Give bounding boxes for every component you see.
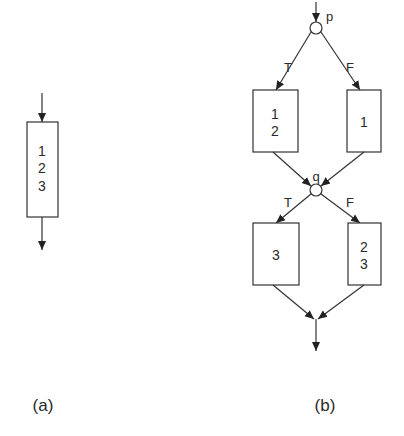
box-bottom-right-line-2: 3	[360, 256, 368, 272]
box-a-line-2: 2	[38, 160, 46, 176]
flow-diagram-figure: 1 2 3 (a) p T F 1 2 1 q T F 3	[0, 0, 404, 436]
decision-node-p	[310, 22, 322, 34]
box-top-left-line-1: 1	[271, 106, 279, 122]
decision-p-label: p	[326, 9, 333, 24]
box-top-right-line-1: 1	[360, 114, 368, 130]
edge-q-false-label: F	[346, 195, 354, 210]
edge-bottom-right-to-merge	[318, 285, 364, 319]
edge-p-true-label: T	[284, 60, 292, 75]
decision-q-label: q	[312, 169, 319, 184]
diagram-a: 1 2 3 (a)	[27, 93, 58, 415]
diagram-b: p T F 1 2 1 q T F 3 2 3 (b)	[253, 2, 381, 415]
edge-top-left-to-q	[273, 152, 311, 186]
box-top-left-line-2: 2	[271, 123, 279, 139]
edge-q-true	[276, 194, 311, 223]
box-a-line-1: 1	[38, 143, 46, 159]
edge-p-false	[321, 32, 360, 90]
box-a-line-3: 3	[38, 178, 46, 194]
box-bottom-left-line-1: 3	[272, 247, 280, 263]
edge-top-right-to-q	[321, 152, 364, 186]
box-bottom-right-line-1: 2	[360, 239, 368, 255]
edge-bottom-left-to-merge	[273, 285, 314, 319]
caption-b: (b)	[315, 396, 336, 415]
caption-a: (a)	[33, 396, 54, 415]
edge-q-false	[321, 194, 360, 223]
edge-q-true-label: T	[284, 195, 292, 210]
decision-node-q	[310, 184, 322, 196]
edge-p-true	[276, 32, 311, 90]
edge-p-false-label: F	[346, 60, 354, 75]
